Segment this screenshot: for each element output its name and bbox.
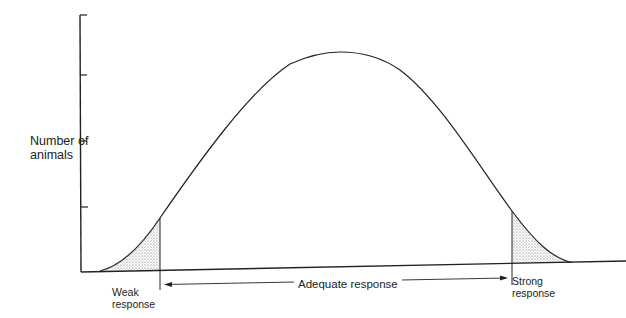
distribution-chart: [0, 0, 626, 318]
strong-response-shaded-region: [512, 211, 572, 264]
weak-label-line2: response: [112, 298, 155, 310]
arrowhead-right-icon: [500, 276, 508, 281]
distribution-curve: [100, 52, 572, 271]
y-axis-label: Number of animals: [30, 134, 88, 162]
weak-response-shaded-region: [100, 218, 160, 272]
adequate-response-label: Adequate response: [294, 277, 402, 291]
strong-label-line1: Strong: [512, 275, 555, 287]
weak-response-label: Weak response: [112, 286, 155, 310]
x-axis: [81, 261, 626, 272]
strong-response-label: Strong response: [512, 275, 555, 299]
arrowhead-left-icon: [164, 282, 172, 287]
strong-label-line2: response: [512, 287, 555, 299]
y-axis-label-line1: Number of: [30, 134, 88, 148]
weak-label-line1: Weak: [112, 286, 155, 298]
y-axis-label-line2: animals: [30, 148, 88, 162]
